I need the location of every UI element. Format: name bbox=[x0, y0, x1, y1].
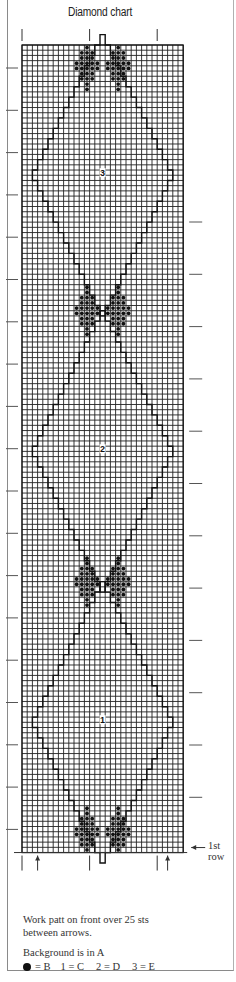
motif-upper-middle-dot bbox=[80, 296, 84, 300]
motif-upper-middle-dot bbox=[111, 322, 115, 326]
motif-lower-middle-dot bbox=[116, 561, 120, 565]
motif-lower-middle-dot bbox=[116, 582, 120, 586]
motif-top-dot bbox=[90, 51, 94, 55]
motif-upper-middle-dot bbox=[85, 306, 89, 310]
motif-top-dot bbox=[116, 61, 120, 65]
motif-top-dot bbox=[111, 67, 115, 71]
motif-lower-middle-dot bbox=[127, 582, 131, 586]
motif-top-dot bbox=[85, 56, 89, 60]
motif-top-dot bbox=[80, 77, 84, 81]
arrow-up-icon bbox=[35, 856, 40, 861]
motif-upper-middle-dot bbox=[111, 317, 115, 321]
motif-lower-middle-dot bbox=[96, 582, 100, 586]
motif-upper-middle-dot bbox=[122, 306, 126, 310]
color-legend: = B 1 = C 2 = D 3 = E bbox=[23, 961, 155, 972]
motif-upper-middle-dot bbox=[122, 322, 126, 326]
motif-top-dot bbox=[85, 61, 89, 65]
knitting-chart-grid: 321 bbox=[0, 0, 236, 900]
motif-bottom-dot bbox=[116, 832, 120, 836]
legend-c-text: 1 = C bbox=[61, 961, 84, 972]
motif-bottom-dot bbox=[96, 827, 100, 831]
motif-lower-middle-dot bbox=[122, 588, 126, 592]
motif-lower-middle-dot bbox=[116, 577, 120, 581]
instruction-text-continued: between arrows. bbox=[23, 926, 92, 940]
motif-upper-middle-dot bbox=[116, 296, 120, 300]
motif-upper-middle-dot bbox=[75, 311, 79, 315]
motif-lower-middle-dot bbox=[85, 588, 89, 592]
motif-lower-middle-dot bbox=[80, 572, 84, 576]
motif-lower-middle-dot bbox=[90, 572, 94, 576]
motif-bottom-dot bbox=[111, 838, 115, 842]
motif-bottom-dot bbox=[90, 832, 94, 836]
diamond-3-label: 3 bbox=[100, 168, 105, 178]
motif-bottom-dot bbox=[116, 838, 120, 842]
motif-lower-middle-dot bbox=[85, 567, 89, 571]
motif-bottom-dot bbox=[85, 812, 89, 816]
legend-e-text: 3 = E bbox=[132, 961, 155, 972]
background-note: Background is in A bbox=[23, 947, 104, 958]
motif-lower-middle-dot bbox=[116, 598, 120, 602]
motif-top-dot bbox=[111, 61, 115, 65]
motif-bottom-dot bbox=[85, 832, 89, 836]
motif-bottom-dot bbox=[122, 817, 126, 821]
motif-upper-middle-dot bbox=[116, 311, 120, 315]
motif-top-dot bbox=[116, 67, 120, 71]
motif-upper-middle-dot bbox=[111, 296, 115, 300]
motif-lower-middle-dot bbox=[116, 588, 120, 592]
motif-upper-middle-dot bbox=[116, 285, 120, 289]
motif-upper-middle-dot bbox=[80, 311, 84, 315]
motif-top-dot bbox=[116, 87, 120, 91]
motif-bottom-dot bbox=[85, 827, 89, 831]
motif-bottom-dot bbox=[90, 838, 94, 842]
motif-bottom-dot bbox=[90, 817, 94, 821]
motif-upper-middle-dot bbox=[85, 291, 89, 295]
motif-bottom-dot bbox=[80, 817, 84, 821]
motif-lower-middle-dot bbox=[90, 588, 94, 592]
motif-bottom-dot bbox=[122, 838, 126, 842]
motif-top-dot bbox=[85, 87, 89, 91]
motif-upper-middle-dot bbox=[122, 301, 126, 305]
legend-item-b: = B bbox=[23, 961, 51, 972]
motif-top-dot bbox=[75, 61, 79, 65]
first-row-label: 1st row bbox=[208, 840, 224, 862]
motif-lower-middle-dot bbox=[122, 582, 126, 586]
motif-top-dot bbox=[116, 51, 120, 55]
motif-lower-middle-dot bbox=[111, 582, 115, 586]
motif-bottom-dot bbox=[122, 822, 126, 826]
motif-top-dot bbox=[90, 56, 94, 60]
motif-lower-middle-dot bbox=[85, 582, 89, 586]
motif-bottom-dot bbox=[122, 843, 126, 847]
motif-top-dot bbox=[106, 67, 110, 71]
motif-upper-middle-dot bbox=[75, 306, 79, 310]
motif-lower-middle-dot bbox=[116, 603, 120, 607]
arrow-up-icon bbox=[165, 856, 170, 861]
diamond-1-label: 1 bbox=[100, 715, 105, 725]
motif-top-dot bbox=[85, 67, 89, 71]
motif-bottom-dot bbox=[116, 822, 120, 826]
motif-bottom-dot bbox=[127, 827, 131, 831]
motif-bottom-dot bbox=[111, 827, 115, 831]
motif-lower-middle-dot bbox=[85, 598, 89, 602]
motif-bottom-dot bbox=[80, 827, 84, 831]
motif-lower-middle-dot bbox=[85, 556, 89, 560]
motif-lower-middle-dot bbox=[122, 572, 126, 576]
motif-top-dot bbox=[80, 67, 84, 71]
motif-upper-middle-dot bbox=[85, 296, 89, 300]
legend-d-text: 2 = D bbox=[96, 961, 120, 972]
motif-upper-middle-dot bbox=[90, 306, 94, 310]
dot-icon bbox=[23, 963, 31, 971]
motif-top-dot bbox=[127, 61, 131, 65]
motif-lower-middle-dot bbox=[80, 593, 84, 597]
motif-lower-middle-dot bbox=[122, 577, 126, 581]
motif-lower-middle-dot bbox=[96, 577, 100, 581]
motif-lower-middle-dot bbox=[90, 582, 94, 586]
motif-bottom-dot bbox=[75, 832, 79, 836]
motif-upper-middle-dot bbox=[111, 311, 115, 315]
motif-top-dot bbox=[122, 77, 126, 81]
motif-lower-middle-dot bbox=[111, 572, 115, 576]
motif-top-dot bbox=[122, 72, 126, 76]
motif-lower-middle-dot bbox=[85, 593, 89, 597]
motif-lower-middle-dot bbox=[85, 577, 89, 581]
motif-lower-middle-dot bbox=[80, 588, 84, 592]
motif-upper-middle-dot bbox=[116, 322, 120, 326]
